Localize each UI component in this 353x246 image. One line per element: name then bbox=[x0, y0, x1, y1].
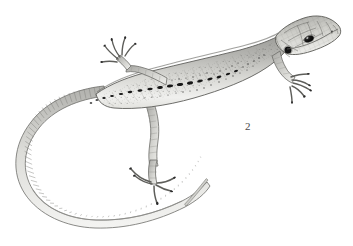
hindleg-upper bbox=[146, 103, 159, 166]
ear-opening bbox=[284, 46, 291, 53]
foreleg-upper-right bbox=[272, 51, 295, 83]
lizard-illustration bbox=[0, 0, 353, 246]
figure-number-label: 2 bbox=[245, 121, 251, 132]
body-group bbox=[90, 31, 290, 109]
right-foreleg bbox=[272, 51, 312, 104]
head-group bbox=[275, 16, 340, 57]
foreleg-forearm-left bbox=[116, 55, 131, 70]
left-hindleg bbox=[129, 103, 176, 205]
illustration-plate: 2 bbox=[0, 0, 353, 246]
